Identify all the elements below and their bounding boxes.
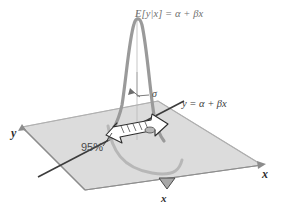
y-axis-label: y [11,127,16,139]
sigma-label: σ [152,89,157,99]
expectation-label: E[y|x] = α + βx [135,9,203,20]
regression-3d-illustration [0,0,281,215]
x-value-marker [159,178,175,189]
x-axis-label: x [262,168,268,180]
regression-line-label: y = α + βx [182,99,227,110]
x-value-label: x [161,193,167,204]
xy-plane [22,101,262,190]
figure-canvas: E[y|x] = α + βx y = α + βx σ 95% y x x [0,0,281,215]
confidence-label: 95% [81,142,103,153]
sigma-indicator [128,72,149,97]
